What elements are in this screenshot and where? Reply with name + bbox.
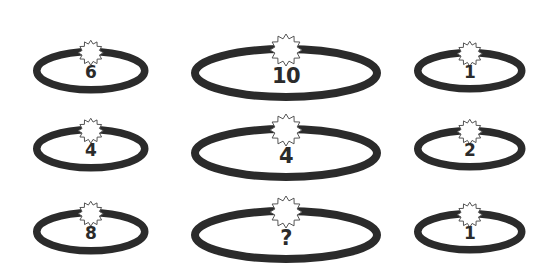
ellipse-graphic-r1c3 [411,23,529,93]
cell-value-r1c2: 10 [188,66,384,87]
ellipse-graphic-r1c1 [30,22,152,94]
ellipse-graphic-r3c2 [188,181,384,263]
puzzle-cell-r2c1: 4 [30,100,152,172]
puzzle-cell-r2c2: 4 [188,99,384,181]
ellipse-graphic-r3c3 [411,184,529,254]
cell-value-r2c1: 4 [30,142,152,159]
ellipse-graphic-r2c2 [188,99,384,181]
ellipse-graphic-r2c3 [411,101,529,171]
cell-value-r2c3: 2 [411,142,529,159]
ellipse-graphic-r3c1 [30,183,152,255]
cell-value-r3c1: 8 [30,225,152,242]
starburst-icon [270,34,302,66]
puzzle-cell-r1c2: 10 [188,19,384,101]
cell-value-r2c2: 4 [188,146,384,167]
puzzle-cell-r1c3: 1 [411,23,529,93]
puzzle-cell-r3c1: 8 [30,183,152,255]
cell-value-r1c3: 1 [411,64,529,81]
ellipse-graphic-r2c1 [30,100,152,172]
ellipse-graphic-r1c2 [188,19,384,101]
puzzle-cell-r1c1: 6 [30,22,152,94]
cell-value-r3c3: 1 [411,225,529,242]
cell-value-r3c2: ? [188,228,384,249]
puzzle-cell-r3c3: 1 [411,184,529,254]
puzzle-cell-r2c3: 2 [411,101,529,171]
starburst-icon [270,196,302,228]
puzzle-cell-r3c2: ? [188,181,384,263]
starburst-icon [270,114,302,146]
cell-value-r1c1: 6 [30,64,152,81]
